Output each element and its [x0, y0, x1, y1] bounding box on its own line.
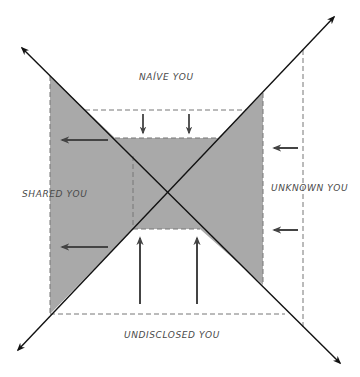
- naive-you-label: NAÍVE YOU: [139, 72, 194, 82]
- unknown-you-label: UNKNOWN YOU: [271, 183, 348, 193]
- shared-you-label: SHARED YOU: [22, 189, 87, 199]
- undisclosed-you-label: UNDISCLOSED YOU: [124, 330, 220, 340]
